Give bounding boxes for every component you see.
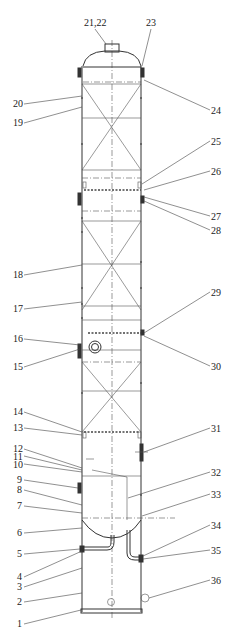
bottom-head (80, 518, 175, 562)
label-1: 1 (17, 618, 22, 629)
label-32: 32 (211, 467, 221, 478)
base-ring (81, 609, 142, 613)
label-14: 14 (13, 406, 23, 417)
left-nozzles (78, 68, 81, 493)
column-diagram: 21,22 23 24 25 26 27 28 29 30 31 32 33 3… (0, 0, 235, 642)
label-35: 35 (211, 545, 221, 556)
label-26: 26 (211, 166, 221, 177)
label-28: 28 (211, 225, 221, 236)
label-19: 19 (13, 117, 23, 128)
label-15: 15 (13, 361, 23, 372)
label-31: 31 (211, 423, 221, 434)
label-24: 24 (211, 105, 221, 116)
label-23: 23 (146, 17, 156, 28)
label-36: 36 (211, 575, 221, 586)
packing-bed-2 (82, 221, 141, 320)
label-20: 20 (13, 98, 23, 109)
label-30: 30 (211, 361, 221, 372)
bottom-internals (82, 444, 148, 520)
skirt-nozzle (141, 594, 149, 602)
label-29: 29 (211, 287, 221, 298)
label-33: 33 (211, 489, 221, 500)
skirt (81, 594, 149, 613)
level-gauge (140, 444, 143, 461)
label-2: 2 (17, 596, 22, 607)
redistributor-2 (82, 333, 141, 362)
label-3: 3 (17, 581, 22, 592)
label-18: 18 (13, 269, 23, 280)
label-10: 10 (13, 459, 23, 470)
packing-bed-1 (82, 84, 141, 170)
label-27: 27 (211, 211, 221, 222)
manway (89, 341, 101, 353)
label-6: 6 (17, 527, 22, 538)
label-5: 5 (17, 548, 22, 559)
label-17: 17 (13, 303, 23, 314)
tick-marks (81, 98, 142, 495)
label-25: 25 (211, 136, 221, 147)
label-34: 34 (211, 520, 221, 531)
outlet-pipe-left (82, 535, 111, 547)
label-16: 16 (13, 333, 23, 344)
packing-bed-3 (82, 362, 141, 438)
label-21-22: 21,22 (84, 17, 107, 28)
leader-lines-left (24, 96, 82, 624)
label-7: 7 (17, 500, 22, 511)
label-13: 13 (13, 422, 23, 433)
redistributor-1 (82, 178, 141, 221)
label-8: 8 (17, 484, 22, 495)
